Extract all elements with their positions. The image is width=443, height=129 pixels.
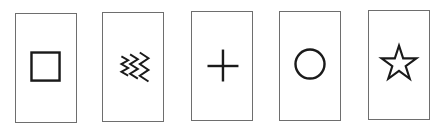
- card-square[interactable]: [15, 13, 77, 123]
- card-circle[interactable]: [279, 11, 341, 121]
- card-star[interactable]: [368, 10, 430, 120]
- card-plus[interactable]: [191, 11, 253, 121]
- circle-icon: [280, 12, 340, 120]
- wavy-lines-icon: [103, 13, 163, 121]
- plus-icon: [192, 12, 252, 120]
- square-icon: [16, 14, 76, 122]
- card-wavy-lines[interactable]: [102, 12, 164, 122]
- star-icon: [369, 11, 429, 119]
